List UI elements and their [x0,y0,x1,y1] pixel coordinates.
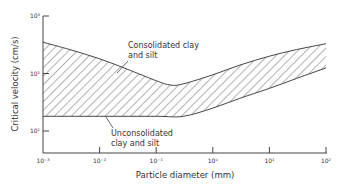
annotation-unconsolidated-line2: clay and silt [111,139,159,148]
x-tick-label: 10² [321,157,332,164]
annotation-consolidated-line2: and silt [128,51,157,60]
x-tick-label: 10⁻² [93,157,107,164]
leader-line [106,117,113,128]
x-tick-label: 10⁻³ [36,157,50,164]
x-tick-label: 10¹ [264,157,275,164]
annotation-unconsolidated-line1: Unconsolidated [111,129,173,138]
annotation-consolidated: Consolidated clay and silt [117,41,199,73]
critical-velocity-chart: 10³10²10¹ 10⁻³10⁻²10⁻¹10⁰10¹10² Critical… [0,0,348,187]
annotation-consolidated-line1: Consolidated clay [128,41,199,50]
x-axis: 10⁻³10⁻²10⁻¹10⁰10¹10² [36,147,331,164]
y-axis-title: Critical velocity (cm/s) [10,36,20,131]
y-tick-label: 10¹ [30,127,41,134]
x-tick-label: 10⁻¹ [150,157,164,164]
hatched-region [43,42,326,117]
hatched-fill [43,42,326,117]
y-tick-label: 10³ [30,12,41,19]
y-tick-label: 10² [30,70,41,77]
x-tick-label: 10⁰ [208,157,219,164]
x-ticks: 10⁻³10⁻²10⁻¹10⁰10¹10² [36,147,331,164]
x-axis-title: Particle diameter (mm) [136,170,235,180]
annotation-unconsolidated: Unconsolidated clay and silt [106,117,173,148]
